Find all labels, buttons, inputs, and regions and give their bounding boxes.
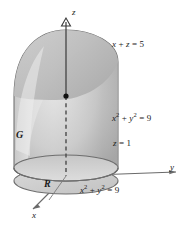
label-region-R: R <box>44 179 51 189</box>
label-solid-G: G <box>16 130 23 140</box>
label-cylinder-lower: x2 + y2 = 9 <box>80 186 119 195</box>
axis-label-z: z <box>72 8 76 17</box>
axis-label-y: y <box>170 163 174 172</box>
center-point <box>63 93 68 98</box>
label-plane-z-equals-1: z = 1 <box>113 139 131 148</box>
label-cylinder-upper: x2 + y2 = 9 <box>112 114 151 123</box>
label-plane-x-plus-z-equals-5: x + z = 5 <box>112 40 144 49</box>
math-figure-solid-g: x + z = 5 x2 + y2 = 9 z = 1 x2 + y2 = 9 … <box>0 0 187 226</box>
axis-label-x: x <box>32 211 36 220</box>
